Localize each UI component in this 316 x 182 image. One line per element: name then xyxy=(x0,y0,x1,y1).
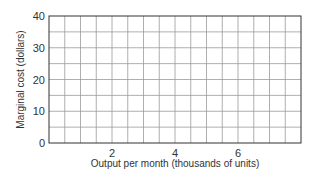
grid-lines xyxy=(49,16,301,143)
y-axis-ticks: 010203040 xyxy=(33,10,45,149)
y-tick-label: 20 xyxy=(33,74,45,86)
y-axis-label: Marginal cost (dollars) xyxy=(15,30,26,128)
y-tick-label: 10 xyxy=(33,105,45,117)
y-tick-label: 40 xyxy=(33,10,45,22)
x-axis-label: Output per month (thousands of units) xyxy=(91,158,259,169)
marginal-cost-chart: 010203040 246 Output per month (thousand… xyxy=(0,0,316,182)
y-tick-label: 30 xyxy=(33,42,45,54)
y-tick-label: 0 xyxy=(39,137,45,149)
